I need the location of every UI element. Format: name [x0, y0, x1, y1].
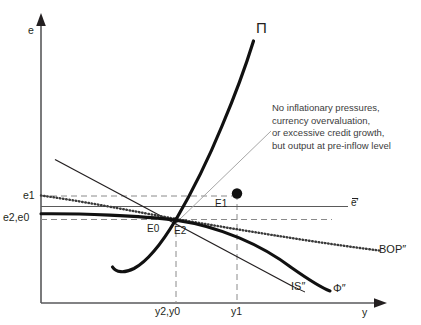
is-curve-label: IS″ — [291, 281, 305, 293]
annotation-line-4: but output at pre-inflow level — [272, 140, 391, 153]
x-axis-label: y — [362, 307, 367, 318]
pi-curve-label: Π — [256, 20, 267, 36]
phi-curve-label: Φ″ — [333, 283, 346, 295]
annotation-line-2: currency overvaluation, — [272, 115, 391, 128]
equilibrium-label-e1: E1 — [215, 199, 227, 210]
annotation-line-1: No inflationary pressures, — [272, 102, 391, 115]
equilibrium-label-e0: E0 — [147, 224, 159, 235]
x-tick-label-y1: y1 — [231, 306, 242, 317]
diagram-svg — [0, 0, 421, 325]
y-tick-label-e1: e1 — [23, 190, 35, 201]
x-axis-arrowhead — [374, 298, 387, 308]
overbar-decoration — [352, 198, 358, 199]
annotation-block: No inflationary pressures, currency over… — [272, 102, 391, 152]
annotation-line-3: or excessive credit growth, — [272, 127, 391, 140]
equilibrium-label-e2: E2 — [174, 226, 186, 237]
axes-group — [36, 13, 387, 308]
x-tick-label-y2y0: y2,y0 — [155, 306, 180, 317]
diagram-canvas: e y e1 e2,e0 y2,y0 y1 Π e′ BOP″ IS″ Φ″ E… — [0, 0, 421, 325]
e0-e2-intersection-marker — [173, 217, 179, 223]
y-axis-arrowhead — [36, 13, 46, 26]
bop-curve-label: BOP″ — [379, 244, 406, 256]
reference-lines-group — [41, 194, 332, 303]
ebar-prime-label: e′ — [351, 196, 358, 208]
y-tick-label-e2e0: e2,e0 — [3, 212, 29, 223]
pi-curve — [113, 41, 254, 272]
y-axis-label: e — [28, 25, 34, 36]
e1-point-marker — [232, 188, 242, 198]
